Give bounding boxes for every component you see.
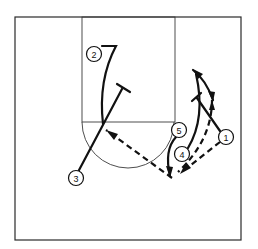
arrowhead-icon bbox=[106, 130, 118, 140]
play-diagram: 1 2 3 4 5 bbox=[0, 0, 258, 249]
player-5-label: 5 bbox=[176, 126, 181, 136]
player-2: 2 bbox=[87, 47, 102, 62]
court-boundary bbox=[15, 17, 241, 240]
player-3-screen bbox=[78, 84, 130, 172]
player-1: 1 bbox=[219, 130, 234, 145]
arrowhead-icon bbox=[180, 162, 191, 174]
player-2-label: 2 bbox=[91, 50, 96, 60]
half-court bbox=[15, 17, 241, 240]
player-4-cut bbox=[188, 74, 200, 148]
free-throw-lane bbox=[82, 17, 175, 122]
screen-t-cap bbox=[117, 84, 130, 92]
player-4-label: 4 bbox=[179, 150, 184, 160]
arrowhead-icon bbox=[209, 100, 215, 110]
player-3-label: 3 bbox=[73, 174, 78, 184]
player-5: 5 bbox=[172, 123, 187, 138]
player-4: 4 bbox=[175, 147, 190, 162]
player-5-cut bbox=[166, 137, 176, 178]
pass-to-elbow bbox=[106, 130, 172, 178]
player-3: 3 bbox=[69, 171, 84, 186]
arrowhead-icon bbox=[166, 166, 173, 178]
player-1-label: 1 bbox=[223, 133, 228, 143]
